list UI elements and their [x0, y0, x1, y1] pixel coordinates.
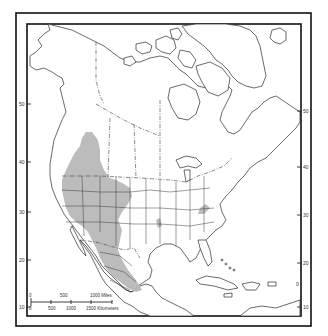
lat-label-right-0: 0 [296, 281, 299, 287]
lat-label-left-50: 50 [19, 101, 25, 107]
scale-km-1000: 1000 [66, 306, 77, 311]
south-america [240, 300, 300, 316]
scale-miles-500: 500 [60, 293, 68, 298]
lat-label-right-50: 50 [303, 108, 309, 114]
hispaniola [242, 282, 260, 290]
latitude-ticks-right: 50 40 30 20 10 0 [296, 108, 309, 310]
lat-label-right-30: 30 [303, 212, 309, 218]
scale-miles-1000: 1000 Miles [90, 293, 113, 298]
cuba [196, 276, 238, 290]
florida [198, 240, 212, 266]
scale-miles-0: 0 [29, 293, 32, 298]
bahamas-4 [233, 269, 235, 271]
scale-km-1500: 1500 Kilometers [86, 306, 119, 311]
bahamas-3 [229, 267, 231, 269]
lat-label-right-10: 10 [303, 304, 309, 310]
scale-km-500: 500 [48, 306, 56, 311]
arctic-islands-1 [136, 42, 152, 54]
bahamas-1 [221, 259, 223, 261]
jamaica [224, 293, 232, 297]
range-map: 50 40 30 20 10 50 40 30 20 10 0 0 500 10… [0, 0, 328, 336]
lat-label-left-40: 40 [19, 159, 25, 165]
scale-km-0: 0 [29, 306, 32, 311]
latitude-ticks-left: 50 40 30 20 10 [19, 101, 31, 310]
lat-label-left-20: 20 [19, 257, 25, 263]
lat-label-right-40: 40 [303, 164, 309, 170]
iceland [270, 28, 286, 44]
lat-label-left-30: 30 [19, 209, 25, 215]
scale-bar: 0 500 1000 Miles 0 500 1000 1500 Kilomet… [29, 293, 119, 311]
arctic-islands-3 [170, 28, 182, 40]
lat-label-left-10: 10 [19, 304, 25, 310]
puerto-rico [268, 282, 276, 286]
bahamas-2 [225, 263, 227, 265]
lat-label-right-20: 20 [303, 260, 309, 266]
arctic-islands-4 [178, 50, 196, 68]
